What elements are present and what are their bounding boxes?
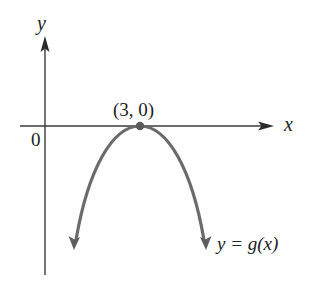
y-axis	[41, 36, 50, 275]
vertex-point	[136, 122, 144, 130]
vertex-label: (3, 0)	[113, 100, 154, 119]
y-axis-label: y	[37, 13, 46, 33]
parabola-curve	[69, 126, 212, 250]
left-arrow-icon	[69, 236, 81, 250]
x-axis-label: x	[284, 114, 293, 134]
function-label: y = g(x)	[217, 234, 278, 253]
right-arrow-icon	[200, 236, 212, 250]
origin-label: 0	[31, 130, 41, 149]
